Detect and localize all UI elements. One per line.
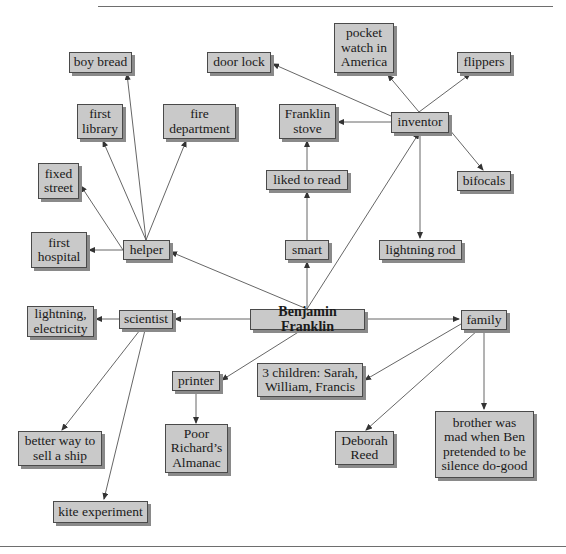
edge-scientist-better-way-ship [62,330,140,430]
node-door-lock: door lock [207,52,271,73]
node-first-hospital: first hospital [31,232,87,268]
edge-inventor-pocket-watch [388,75,419,112]
node-inventor: inventor [391,112,449,133]
node-boy-bread: boy bread [69,52,132,73]
node-three-children: 3 children: Sarah, William, Francis [257,363,363,397]
edge-helper-fixed-street [81,186,123,250]
edge-helper-first-library [103,141,146,240]
node-deborah-reed: Deborah Reed [335,431,394,465]
node-better-way-ship: better way to sell a ship [18,431,102,466]
node-pocket-watch: pocket watch in America [334,23,394,73]
node-bifocals: bifocals [457,171,511,191]
node-family: family [461,310,507,330]
node-brother: brother was mad when Ben pretended to be… [435,411,534,478]
node-kite-experiment: kite experiment [53,501,148,523]
edge-center-inventor [307,133,419,309]
node-flippers: flippers [457,52,511,73]
node-printer: printer [172,371,220,391]
node-lightning-electricity: lightning, electricity [27,306,94,337]
edge-helper-fire-department [146,141,186,240]
node-lightning-rod: lightning rod [379,240,462,260]
node-franklin-stove: Franklin stove [279,104,336,139]
edge-inventor-bifocals [449,129,483,170]
edge-center-helper [171,252,307,309]
edge-helper-boy-bread [127,74,146,240]
edge-family-three-children [365,324,461,380]
node-poor-richards: Poor Richard’s Almanac [165,424,228,473]
node-first-library: first library [77,104,123,139]
edge-scientist-kite-experiment [104,330,145,499]
edge-inventor-flippers [419,74,470,112]
node-helper: helper [123,240,170,260]
node-fire-department: fire department [163,104,236,139]
node-scientist: scientist [119,310,173,329]
node-benjamin-franklin: Benjamin Franklin [250,309,365,330]
node-liked-to-read: liked to read [266,170,348,190]
node-fixed-street: fixed street [38,163,79,199]
node-smart: smart [285,240,329,260]
